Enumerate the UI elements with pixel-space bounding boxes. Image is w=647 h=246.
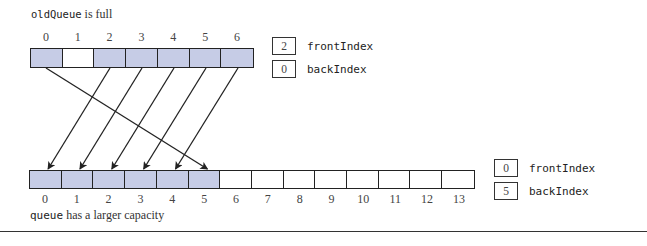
new-queue-index-labels: 012345678910111213 <box>29 192 475 207</box>
index-label: 11 <box>379 192 411 207</box>
new-queue-caption: queue has a larger capacity <box>30 208 164 223</box>
array-cell <box>315 171 347 188</box>
copy-arrow <box>144 68 206 169</box>
copy-arrow <box>112 68 174 169</box>
array-cell <box>93 171 125 188</box>
new-front-index: 0 frontIndex <box>494 159 595 177</box>
index-label: 4 <box>156 192 188 207</box>
new-front-index-value: 0 <box>494 159 518 177</box>
array-cell <box>284 171 316 188</box>
new-back-index-label: backIndex <box>529 185 589 198</box>
index-label: 0 <box>29 192 61 207</box>
bottom-divider <box>0 231 647 232</box>
array-cell <box>157 171 189 188</box>
index-label: 3 <box>125 192 157 207</box>
array-cell <box>30 171 62 188</box>
array-cell <box>442 171 474 188</box>
index-label: 9 <box>316 192 348 207</box>
new-back-index: 5 backIndex <box>494 182 589 200</box>
index-label: 5 <box>188 192 220 207</box>
new-queue-caption-text: has a larger capacity <box>63 208 164 222</box>
copy-arrow <box>46 68 207 169</box>
copy-arrow <box>176 68 238 169</box>
array-cell <box>252 171 284 188</box>
array-cell <box>410 171 442 188</box>
array-cell <box>379 171 411 188</box>
new-queue-name: queue <box>30 209 63 222</box>
index-label: 6 <box>220 192 252 207</box>
index-label: 13 <box>443 192 475 207</box>
array-cell <box>189 171 221 188</box>
index-label: 10 <box>347 192 379 207</box>
index-label: 12 <box>411 192 443 207</box>
index-label: 7 <box>252 192 284 207</box>
new-queue-array <box>29 170 475 189</box>
new-front-index-label: frontIndex <box>529 162 595 175</box>
array-cell <box>62 171 94 188</box>
array-cell <box>347 171 379 188</box>
copy-arrow <box>80 68 142 169</box>
copy-arrow <box>48 68 110 169</box>
new-back-index-value: 5 <box>494 182 518 200</box>
index-label: 1 <box>61 192 93 207</box>
index-label: 8 <box>284 192 316 207</box>
array-cell <box>220 171 252 188</box>
array-cell <box>125 171 157 188</box>
index-label: 2 <box>93 192 125 207</box>
